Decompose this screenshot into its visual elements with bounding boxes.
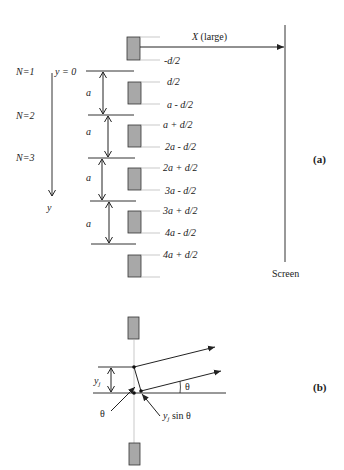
edge-label: 2a - d/2 [165, 141, 196, 152]
y-origin-label: y = 0 [54, 66, 76, 77]
part-a-label: (a) [313, 153, 326, 166]
edge-guides [140, 37, 160, 277]
edge-label: a - d/2 [167, 99, 193, 110]
part-a: X (large) Screen (a) -d/2 d/2 a - d/2 a … [15, 25, 326, 279]
slit-3 [128, 168, 141, 190]
yj-label: yj [93, 375, 100, 388]
slit-1 [128, 82, 141, 104]
spacing-label: a [86, 172, 91, 183]
ray-top [134, 347, 215, 367]
slit-0 [127, 37, 140, 60]
angle-label-right: θ [185, 381, 190, 392]
slit-4 [128, 211, 141, 233]
edge-labels: -d/2 d/2 a - d/2 a + d/2 2a - d/2 2a + d… [162, 55, 198, 260]
slit-2 [128, 125, 141, 147]
path-diff-label: yj sin θ [162, 410, 191, 423]
point [139, 389, 143, 393]
slit-top [128, 317, 139, 339]
slit-bottom [129, 443, 140, 465]
ray-bottom [141, 371, 221, 391]
edge-label: a + d/2 [163, 119, 193, 130]
diffraction-diagram: X (large) Screen (a) -d/2 d/2 a - d/2 a … [0, 0, 344, 470]
edge-label: d/2 [167, 76, 180, 87]
slits [127, 37, 141, 277]
n-label: N=3 [15, 152, 34, 163]
spacing-label: a [86, 87, 91, 98]
path-diff-pointer [142, 394, 160, 416]
angle-label-left: θ [100, 408, 105, 419]
edge-label: 3a + d/2 [162, 205, 198, 216]
screen-label: Screen [272, 268, 299, 279]
n-label: N=1 [15, 66, 34, 77]
edge-label: 4a + d/2 [163, 249, 198, 260]
edge-label: 2a + d/2 [163, 162, 198, 173]
edge-label: 4a - d/2 [165, 227, 196, 238]
edge-label: -d/2 [164, 55, 180, 66]
edge-label: 3a - d/2 [164, 185, 196, 196]
part-b: yj θ θ yj sin θ (b) [93, 317, 327, 465]
n-label: N=2 [15, 110, 34, 121]
part-b-label: (b) [313, 381, 327, 394]
distance-label: X (large) [191, 31, 227, 43]
point [132, 391, 136, 395]
spacing-label: a [86, 126, 91, 137]
y-axis-label: y [46, 202, 52, 213]
theta-pointer [111, 387, 135, 411]
point [132, 365, 136, 369]
spacing-label: a [86, 218, 91, 229]
slit-5 [128, 255, 141, 277]
